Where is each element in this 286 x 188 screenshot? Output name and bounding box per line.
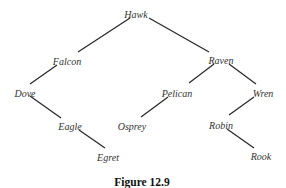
node-robin: Robin [208,120,233,131]
node-raven: Raven [208,55,234,66]
edge-hawk-falcon [78,18,130,52]
edge-falcon-dove [30,65,57,84]
tree-diagram: Hawk Falcon Raven Dove Pelican Wren Eagl… [0,0,286,188]
node-hawk: Hawk [123,9,148,20]
figure-caption: Figure 12.9 [114,176,170,188]
edge-robin-rook [227,129,254,148]
edge-hawk-raven [149,18,209,52]
edge-eagle-egret [79,130,105,148]
node-osprey: Osprey [118,121,147,132]
edge-dove-eagle [30,96,61,118]
node-dove: Dove [13,88,36,99]
node-egret: Egret [96,152,119,163]
node-eagle: Eagle [57,121,82,132]
node-wren: Wren [253,88,274,99]
node-pelican: Pelican [161,88,193,99]
node-falcon: Falcon [52,56,81,67]
edge-raven-wren [229,64,256,84]
edge-pelican-osprey [141,97,168,117]
edge-wren-robin [229,97,254,115]
node-rook: Rook [250,151,272,162]
edge-raven-pelican [189,64,214,83]
nodes: Hawk Falcon Raven Dove Pelican Wren Eagl… [13,9,273,163]
